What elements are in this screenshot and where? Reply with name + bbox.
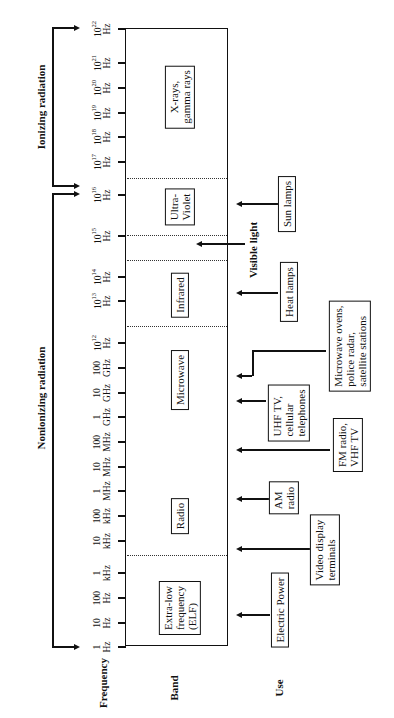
header-use: Use bbox=[274, 679, 286, 696]
frequency-tick-label: 10GHz bbox=[93, 384, 112, 402]
use-heat-lamps: Heat lamps bbox=[280, 262, 298, 322]
use-video-display: Video displayterminals bbox=[310, 515, 340, 586]
nonionizing-radiation-label: Nonionizing radiation bbox=[36, 347, 48, 450]
frequency-tick-label: 1017Hz bbox=[91, 154, 112, 170]
frequency-tick bbox=[118, 161, 126, 163]
frequency-tick-label: 100kHz bbox=[93, 508, 112, 524]
frequency-tick bbox=[118, 367, 126, 369]
frequency-tick-label: 1015Hz bbox=[91, 228, 112, 244]
frequency-tick bbox=[118, 342, 126, 344]
frequency-tick-label: 1GHz bbox=[93, 408, 112, 426]
band-elf: Extra-lowfrequency(ELF) bbox=[159, 581, 201, 635]
frequency-tick bbox=[118, 466, 126, 468]
frequency-tick bbox=[118, 490, 126, 492]
frequency-tick bbox=[118, 28, 126, 30]
frequency-tick bbox=[118, 87, 126, 89]
frequency-tick-label: 1018Hz bbox=[91, 129, 112, 145]
frequency-tick bbox=[118, 392, 126, 394]
use-microwave-ovens: Microwave ovens,police radar,satellite s… bbox=[329, 300, 371, 391]
divider-uv-visible bbox=[127, 235, 227, 236]
frequency-tick bbox=[118, 441, 126, 443]
use-am-radio: AMradio bbox=[269, 482, 299, 515]
divider-visible-ir bbox=[127, 260, 227, 261]
frequency-tick bbox=[118, 194, 126, 196]
frequency-tick bbox=[118, 540, 126, 542]
frequency-tick bbox=[118, 622, 126, 624]
frequency-tick-label: 1019Hz bbox=[91, 105, 112, 121]
divider-radio-elf bbox=[127, 555, 227, 556]
frequency-tick-label: 1020Hz bbox=[91, 80, 112, 96]
frequency-tick-label: 100MHz bbox=[93, 432, 112, 452]
band-radio: Radio bbox=[171, 498, 189, 534]
frequency-tick-label: 1016Hz bbox=[91, 187, 112, 203]
visible-light-label: Visible light bbox=[248, 222, 260, 278]
frequency-tick bbox=[118, 416, 126, 418]
frequency-tick-label: 1022Hz bbox=[91, 21, 112, 37]
band-ultraviolet: Ultra-Violet bbox=[165, 189, 195, 226]
frequency-tick bbox=[118, 572, 126, 574]
frequency-tick-label: 10MHz bbox=[93, 457, 112, 477]
frequency-tick-label: 100Hz bbox=[93, 591, 112, 605]
use-electric-power: Electric Power bbox=[271, 572, 289, 647]
frequency-tick bbox=[118, 276, 126, 278]
frequency-tick-label: 1kHz bbox=[93, 565, 112, 581]
use-sun-lamps: Sun lamps bbox=[278, 176, 296, 232]
frequency-tick-label: 1013Hz bbox=[91, 293, 112, 309]
frequency-tick bbox=[118, 597, 126, 599]
band-xrays-gamma: X-rays,gamma rays bbox=[165, 65, 195, 128]
frequency-tick-label: 1014Hz bbox=[91, 269, 112, 285]
frequency-tick bbox=[118, 136, 126, 138]
frequency-tick bbox=[118, 62, 126, 64]
band-microwave: Microwave bbox=[171, 350, 189, 410]
frequency-tick-label: 1Hz bbox=[93, 641, 112, 652]
divider-ir-microwave bbox=[127, 326, 227, 327]
frequency-tick-label: 10Hz bbox=[93, 617, 112, 628]
frequency-tick bbox=[118, 112, 126, 114]
use-uhf-tv: UHF TV,cellulartelephones bbox=[268, 384, 310, 441]
frequency-tick bbox=[118, 515, 126, 517]
ionizing-radiation-label: Ionizing radiation bbox=[36, 65, 48, 150]
use-fm-radio: FM radio,VHF TV bbox=[333, 418, 363, 472]
frequency-tick bbox=[118, 300, 126, 302]
frequency-tick-label: 100GHz bbox=[93, 359, 112, 377]
frequency-tick bbox=[118, 235, 126, 237]
frequency-tick-label: 1021Hz bbox=[91, 55, 112, 71]
header-band: Band bbox=[169, 675, 181, 700]
frequency-tick-label: 10kHz bbox=[93, 533, 112, 549]
header-frequency: Frequency bbox=[98, 658, 110, 708]
frequency-tick-label: 1012Hz bbox=[91, 335, 112, 351]
frequency-tick bbox=[118, 646, 126, 648]
divider-xray-uv bbox=[127, 178, 227, 179]
band-infrared: Infrared bbox=[171, 272, 189, 317]
frequency-tick-label: 1MHz bbox=[93, 481, 112, 501]
